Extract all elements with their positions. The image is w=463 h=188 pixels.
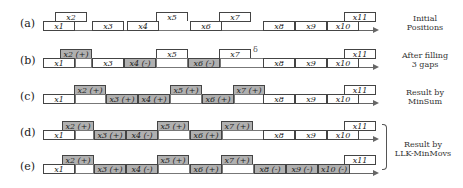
gap-b3: [220, 58, 263, 68]
cell-x3-c: x3 (+): [106, 94, 138, 104]
caption-b-line2: 3 gaps: [393, 60, 457, 69]
gap-a: [159, 21, 190, 31]
gap-d3: [222, 130, 263, 140]
cell-x7-a: x7: [219, 12, 251, 22]
cell-x1-b: x1: [43, 58, 75, 68]
gap-c2: [170, 94, 202, 104]
cell-x9-b: x9: [295, 58, 327, 68]
caption-b: After filling3 gaps: [393, 51, 457, 69]
cell-x9-d: x9: [295, 130, 327, 140]
row-label-c: (c): [20, 90, 35, 103]
gap-marker-icon: δ: [253, 45, 258, 54]
row-label-a: (a): [20, 17, 35, 30]
caption-c-line1: Result by: [395, 88, 455, 97]
cell-x3-b: x3: [92, 58, 124, 68]
cell-x8-a: x8: [263, 21, 295, 31]
cell-x11-a: x11: [344, 12, 376, 22]
cell-x9-e: x9 (-): [286, 164, 318, 174]
cell-x2-a: x2: [55, 12, 87, 22]
row-label-e: (e): [20, 160, 35, 173]
caption-de-line1: Result by: [388, 140, 458, 149]
cell-x11-d: x11: [344, 121, 376, 131]
cell-x10-c: x10: [327, 94, 359, 104]
cell-x4-a: x4: [127, 21, 159, 31]
axis-arrow-b: [373, 64, 379, 70]
cell-x6-e: x6 (+): [190, 164, 222, 174]
cell-x6-b: x6 (-): [188, 58, 220, 68]
caption-de: Result byLLK-MinMovs: [388, 140, 458, 158]
cell-x10-b: x10: [327, 58, 359, 68]
axis-arrow-d: [373, 136, 379, 142]
caption-b-line1: After filling: [393, 51, 457, 60]
caption-a: InitialPositions: [395, 14, 455, 32]
gap-c3: [234, 94, 263, 104]
cell-x9-a: x9: [295, 21, 327, 31]
caption-a-line2: Positions: [395, 23, 455, 32]
cell-x4-c: x4 (+): [138, 94, 170, 104]
cell-x3-e: x3 (+): [94, 164, 126, 174]
cell-x6-d: x6 (+): [190, 130, 222, 140]
cell-x4-e: x4 (-): [126, 164, 158, 174]
axis-arrow-c: [373, 100, 379, 106]
gap-e1: [75, 164, 94, 174]
cell-x1-d: x1: [43, 130, 75, 140]
caption-c: Result byMinSum: [395, 88, 455, 106]
cell-x11-b: x11: [344, 49, 376, 59]
axis-arrow-e: [373, 170, 379, 176]
row-label-d: (d): [20, 126, 36, 139]
row-label-b: (b): [20, 54, 36, 67]
cell-x1-e: x1: [43, 164, 75, 174]
cell-x6-c: x6 (+): [202, 94, 234, 104]
brace-de: [382, 124, 387, 170]
cell-x4-d: x4 (-): [126, 130, 158, 140]
gap-b1: [75, 58, 92, 68]
cell-x10-e: x10 (-): [318, 164, 350, 174]
cell-x4-b: x4 (-): [124, 58, 156, 68]
gap-e3: [222, 164, 254, 174]
gap-c1: [75, 94, 106, 104]
caption-c-line2: MinSum: [395, 97, 455, 106]
caption-de-line2: LLK-MinMovs: [388, 149, 458, 158]
cell-x6-a: x6: [190, 21, 222, 31]
cell-x8-b: x8: [263, 58, 295, 68]
gap-b2: [156, 58, 188, 68]
cell-x3-a: x3: [92, 21, 124, 31]
cell-x8-d: x8: [263, 130, 295, 140]
cell-x11-e: x11: [344, 155, 376, 165]
axis-arrow-a: [373, 27, 379, 33]
gap-e2: [158, 164, 190, 174]
cell-x10-a: x10: [327, 21, 359, 31]
cell-x8-c: x8: [263, 94, 295, 104]
caption-a-line1: Initial: [395, 14, 455, 23]
cell-x11-c: x11: [344, 85, 376, 95]
cell-x1-c: x1: [43, 94, 75, 104]
cell-x8-e: x8 (-): [254, 164, 286, 174]
cell-x10-d: x10: [327, 130, 359, 140]
cell-x3-d: x3 (+): [94, 130, 126, 140]
cell-x1-a: x1: [43, 21, 75, 31]
cell-x9-c: x9: [295, 94, 327, 104]
gap-d2: [158, 130, 190, 140]
gap-d1: [75, 130, 94, 140]
